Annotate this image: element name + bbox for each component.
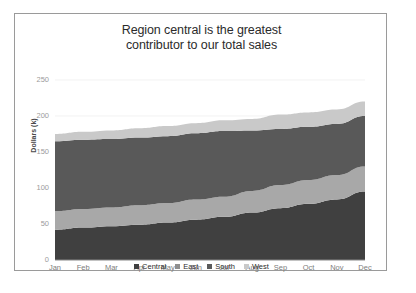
y-tick-label: 250	[23, 75, 49, 84]
y-tick-label: 200	[23, 111, 49, 120]
legend-label: South	[215, 262, 235, 271]
legend-item-east[interactable]: East	[175, 262, 198, 271]
y-tick-label: 50	[23, 219, 49, 228]
legend-label: East	[183, 262, 198, 271]
legend-item-west[interactable]: West	[244, 262, 269, 271]
legend-swatch-icon	[175, 264, 180, 269]
legend-swatch-icon	[207, 264, 212, 269]
stacked-area-chart	[15, 14, 388, 272]
chart-plot-area: Dollars (k) 050100150200250JanFebMarAprM…	[15, 14, 388, 272]
legend-item-south[interactable]: South	[207, 262, 235, 271]
chart-card: Region central is the greatest contribut…	[14, 13, 387, 271]
legend-label: West	[252, 262, 269, 271]
legend-item-central[interactable]: Central	[134, 262, 166, 271]
legend-swatch-icon	[244, 264, 249, 269]
y-tick-label: 100	[23, 183, 49, 192]
legend-swatch-icon	[134, 264, 139, 269]
legend-label: Central	[142, 262, 166, 271]
y-tick-label: 150	[23, 147, 49, 156]
chart-legend: CentralEastSouthWest	[15, 262, 388, 271]
